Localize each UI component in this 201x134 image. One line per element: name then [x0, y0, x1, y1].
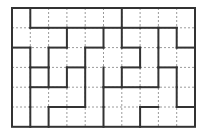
grid-cell[interactable] — [30, 48, 48, 68]
grid-cell[interactable] — [85, 87, 103, 107]
grid-cell[interactable] — [177, 87, 195, 107]
grid-cell[interactable] — [158, 48, 176, 68]
grid-cell[interactable] — [122, 67, 140, 87]
grid-cell[interactable] — [177, 107, 195, 127]
grid-cell[interactable] — [49, 67, 67, 87]
grid-cell[interactable] — [67, 28, 85, 48]
grid-cell[interactable] — [30, 8, 48, 28]
grid-cell[interactable] — [12, 8, 30, 28]
grid-cell[interactable] — [104, 67, 122, 87]
grid-cell[interactable] — [158, 107, 176, 127]
grid-cell[interactable] — [85, 67, 103, 87]
grid-cell[interactable] — [12, 87, 30, 107]
grid-cell[interactable] — [12, 67, 30, 87]
grid-cell[interactable] — [158, 67, 176, 87]
grid-cell[interactable] — [49, 87, 67, 107]
grid-cell[interactable] — [12, 28, 30, 48]
grid-cell[interactable] — [104, 28, 122, 48]
grid-cell[interactable] — [177, 67, 195, 87]
grid-cell[interactable] — [122, 87, 140, 107]
grid-cell[interactable] — [140, 107, 158, 127]
grid-cell[interactable] — [140, 28, 158, 48]
grid-cell[interactable] — [158, 28, 176, 48]
grid-cell[interactable] — [30, 28, 48, 48]
grid-cell[interactable] — [67, 67, 85, 87]
grid-cell[interactable] — [30, 107, 48, 127]
grid-cell[interactable] — [49, 107, 67, 127]
grid-cell[interactable] — [122, 107, 140, 127]
grid-cell[interactable] — [177, 8, 195, 28]
grid-cell[interactable] — [67, 8, 85, 28]
grid-cell[interactable] — [85, 107, 103, 127]
grid-cell[interactable] — [140, 48, 158, 68]
grid-cell[interactable] — [49, 48, 67, 68]
grid-cell[interactable] — [49, 8, 67, 28]
grid-cell[interactable] — [140, 87, 158, 107]
grid-cell[interactable] — [85, 8, 103, 28]
grid-cell[interactable] — [140, 8, 158, 28]
grid-cell[interactable] — [12, 107, 30, 127]
grid-cell[interactable] — [177, 48, 195, 68]
grid-cell[interactable] — [104, 8, 122, 28]
grid-cell[interactable] — [30, 87, 48, 107]
grid-cell[interactable] — [122, 28, 140, 48]
grid-cell[interactable] — [122, 48, 140, 68]
grid-cell[interactable] — [49, 28, 67, 48]
grid-cell[interactable] — [158, 8, 176, 28]
grid-cell[interactable] — [177, 28, 195, 48]
grid-cell[interactable] — [12, 48, 30, 68]
grid-cell[interactable] — [140, 67, 158, 87]
grid-cell[interactable] — [85, 28, 103, 48]
grid-cell[interactable] — [158, 87, 176, 107]
grid-cell[interactable] — [67, 48, 85, 68]
grid-cell[interactable] — [85, 48, 103, 68]
grid-cell[interactable] — [122, 8, 140, 28]
grid-cell[interactable] — [67, 87, 85, 107]
puzzle-grid — [0, 0, 201, 134]
grid-cell[interactable] — [104, 48, 122, 68]
grid-cell[interactable] — [67, 107, 85, 127]
grid-cell[interactable] — [104, 87, 122, 107]
grid-cell[interactable] — [104, 107, 122, 127]
grid-cell[interactable] — [30, 67, 48, 87]
